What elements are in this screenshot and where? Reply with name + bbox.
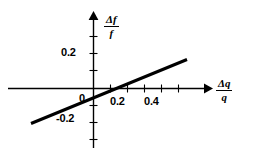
x-axis-label-numerator: Δq — [216, 78, 232, 90]
chart-figure: Δf f Δq q 0.2 -0.2 0 0.2 0.4 — [0, 0, 254, 154]
x-tick-label-0.4: 0.4 — [144, 96, 159, 107]
y-axis-label: Δf f — [104, 14, 119, 39]
y-axis-label-fraction: Δf f — [104, 14, 119, 39]
y-axis-arrow-icon — [89, 11, 99, 20]
x-tick-label-0.2: 0.2 — [110, 96, 125, 107]
y-axis-label-denominator: f — [104, 28, 119, 40]
x-axis-label-denominator: q — [216, 92, 232, 104]
origin-label: 0 — [79, 93, 85, 104]
x-axis-label-fraction: Δq q — [216, 78, 232, 103]
y-tick-label-0.2: 0.2 — [61, 47, 76, 58]
x-axis-arrow-icon — [204, 84, 213, 94]
y-axis-label-numerator: Δf — [104, 14, 119, 26]
data-series-line — [31, 60, 187, 124]
y-tick-label-neg-0.2: -0.2 — [56, 113, 74, 124]
x-axis-label: Δq q — [216, 78, 232, 103]
plot-area — [0, 0, 254, 154]
